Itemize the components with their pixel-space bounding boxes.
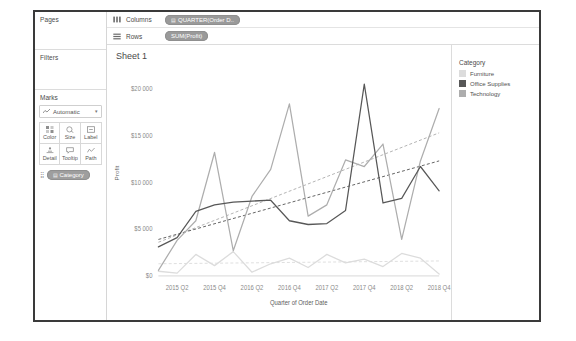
svg-text:$0: $0	[146, 272, 153, 279]
svg-text:2016 Q4: 2016 Q4	[278, 283, 301, 290]
svg-text:2017 Q4: 2017 Q4	[353, 283, 376, 290]
marks-button-size[interactable]: Size	[60, 123, 80, 144]
filters-shelf[interactable]: Filters	[35, 50, 106, 90]
pages-label: Pages	[40, 16, 101, 23]
detail-icon	[46, 147, 54, 155]
filters-label: Filters	[40, 54, 101, 61]
svg-text:2018 Q4: 2018 Q4	[428, 283, 451, 290]
dimension-icon: ▤	[53, 172, 58, 178]
rows-shelf[interactable]: Rows SUM(Profit)	[107, 28, 539, 44]
label-icon	[87, 126, 95, 134]
svg-text:Profit: Profit	[113, 165, 120, 180]
marks-pill-category[interactable]: ▤ Category	[47, 170, 90, 180]
legend-swatch-technology	[459, 90, 466, 97]
rows-pill-sum-profit[interactable]: SUM(Profit)	[165, 31, 208, 41]
legend-label-technology: Technology	[470, 91, 500, 97]
left-shelf-panel: Pages Filters Marks Automatic ▾ Color	[35, 12, 107, 320]
marks-button-color-label: Color	[43, 135, 56, 141]
marks-color-pill-row: ⣿ ▤ Category	[39, 170, 102, 180]
marks-button-tooltip[interactable]: Tooltip	[60, 144, 80, 165]
legend-swatch-office-supplies	[459, 80, 466, 87]
chart-view[interactable]: Sheet 1 $0$5 000$10 000$15 000$20 000Pro…	[107, 45, 451, 320]
marks-button-detail-label: Detail	[43, 156, 57, 162]
rows-pill-label: SUM(Profit)	[171, 33, 202, 39]
canvas-area: Sheet 1 $0$5 000$10 000$15 000$20 000Pro…	[107, 45, 539, 320]
mark-type-label: Automatic	[53, 109, 92, 115]
svg-text:$20 000: $20 000	[131, 85, 153, 92]
marks-button-size-label: Size	[65, 135, 76, 141]
page-title: Sheet 1	[116, 51, 147, 61]
marks-label: Marks	[40, 94, 101, 101]
legend-label-furniture: Furniture	[470, 71, 494, 77]
marks-button-detail[interactable]: Detail	[40, 144, 60, 165]
legend-swatch-furniture	[459, 70, 466, 77]
color-legend: Category Furniture Office Supplies Techn…	[451, 45, 539, 320]
svg-text:2015 Q4: 2015 Q4	[203, 283, 226, 290]
marks-button-color[interactable]: Color	[40, 123, 60, 144]
columns-pill-quarter-order-date[interactable]: ▤ QUARTER(Order D..	[165, 15, 240, 25]
worksheet-area: Columns ▤ QUARTER(Order D.. Rows SUM(Pro…	[107, 12, 539, 320]
legend-item-furniture[interactable]: Furniture	[459, 70, 533, 77]
columns-shelf[interactable]: Columns ▤ QUARTER(Order D..	[107, 12, 539, 28]
columns-shelf-label: Columns	[126, 16, 160, 23]
date-icon: ▤	[171, 17, 176, 23]
legend-title: Category	[459, 59, 533, 66]
columns-pill-label: QUARTER(Order D..	[178, 17, 234, 23]
pages-shelf[interactable]: Pages	[35, 12, 106, 50]
drag-handle-icon[interactable]: ⣿	[40, 172, 44, 178]
rows-shelf-label: Rows	[126, 33, 160, 40]
path-icon	[87, 147, 95, 155]
svg-text:$15 000: $15 000	[131, 132, 153, 139]
marks-button-path-label: Path	[85, 156, 96, 162]
svg-text:2015 Q2: 2015 Q2	[166, 283, 189, 290]
svg-text:2017 Q2: 2017 Q2	[315, 283, 338, 290]
svg-text:$10 000: $10 000	[131, 178, 153, 185]
chevron-down-icon[interactable]: ▾	[95, 109, 98, 114]
color-icon	[46, 126, 54, 134]
marks-card: Marks Automatic ▾ Color	[35, 90, 106, 320]
marks-pill-category-label: Category	[60, 172, 84, 178]
line-mark-icon	[43, 109, 50, 114]
marks-button-path[interactable]: Path	[81, 144, 101, 165]
size-icon	[66, 126, 74, 134]
mark-type-dropdown[interactable]: Automatic ▾	[39, 105, 102, 118]
marks-buttons-grid: Color Size Label	[39, 122, 102, 165]
tableau-worksheet-window: Pages Filters Marks Automatic ▾ Color	[33, 10, 541, 322]
columns-icon	[113, 16, 121, 23]
legend-item-office-supplies[interactable]: Office Supplies	[459, 80, 533, 87]
svg-text:$5 000: $5 000	[134, 225, 153, 232]
shelf-container: Columns ▤ QUARTER(Order D.. Rows SUM(Pro…	[107, 12, 539, 45]
rows-icon	[113, 33, 121, 40]
legend-label-office-supplies: Office Supplies	[470, 81, 510, 87]
marks-button-label[interactable]: Label	[81, 123, 101, 144]
svg-text:2016 Q2: 2016 Q2	[241, 283, 264, 290]
tooltip-icon	[66, 147, 74, 155]
svg-text:Quarter of Order Date: Quarter of Order Date	[270, 299, 328, 306]
marks-button-tooltip-label: Tooltip	[62, 156, 78, 162]
marks-button-label-label: Label	[84, 135, 97, 141]
svg-text:2018 Q2: 2018 Q2	[390, 283, 413, 290]
legend-item-technology[interactable]: Technology	[459, 90, 533, 97]
line-chart[interactable]: $0$5 000$10 000$15 000$20 000Profit2015 …	[107, 45, 451, 320]
